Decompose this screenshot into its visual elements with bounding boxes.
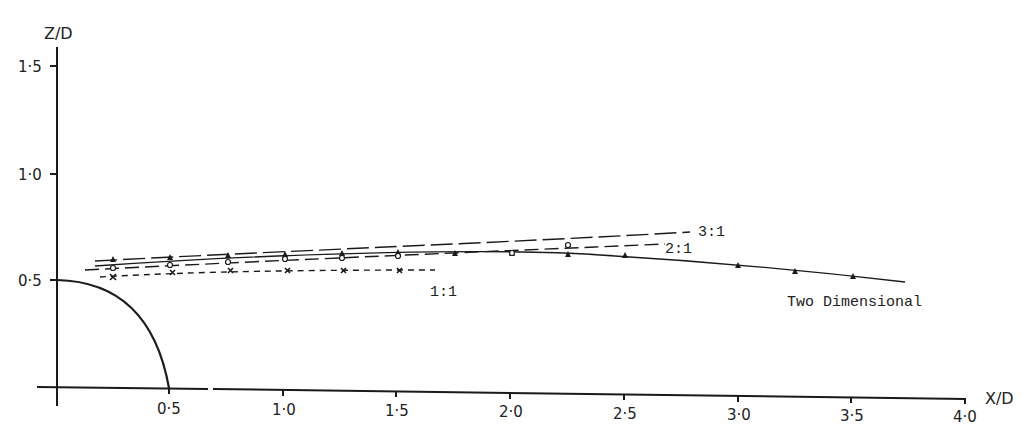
y-tick-labels: 1·5 1·0 0·5 [18,58,42,290]
series-3-1-line [95,232,690,261]
svg-text:1·5: 1·5 [18,58,42,76]
svg-text:3·0: 3·0 [727,406,751,424]
svg-text:2·5: 2·5 [613,405,637,423]
series-2d-line [95,252,905,282]
axes [37,47,966,406]
svg-text:1·0: 1·0 [272,401,296,419]
svg-text:1·0: 1·0 [18,166,42,184]
label-1-1: 1:1 [430,284,457,301]
series-1-1-line [100,270,435,277]
label-2-1: 2:1 [665,241,692,258]
series-2d-markers [110,249,856,279]
x-axis [213,389,966,399]
svg-text:3·5: 3·5 [840,407,864,425]
y-axis-title: Z/D [44,24,73,43]
body-outline [57,280,169,388]
svg-text:0·5: 0·5 [157,400,181,418]
x-axis [37,387,208,389]
x-axis-title: X/D [985,389,1014,408]
svg-text:2·0: 2·0 [499,403,523,421]
x-tick-labels: 0·5 1·0 1·5 2·0 2·5 3·0 3·5 4·0 [157,400,977,426]
svg-text:4·0: 4·0 [953,408,977,426]
svg-text:0·5: 0·5 [18,272,42,290]
label-two-dimensional: Two Dimensional [787,294,922,311]
svg-text:1·5: 1·5 [385,402,409,420]
trajectory-chart: Z/D X/D 1·5 1·0 0·5 0·5 1·0 1·5 2·0 2·5 … [0,0,1027,431]
label-3-1: 3:1 [698,224,725,241]
